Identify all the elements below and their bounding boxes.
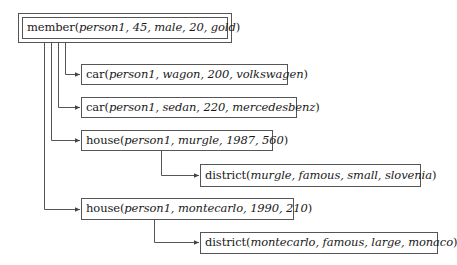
district1-args: murgle, famous, small, slovenia <box>250 170 432 182</box>
house1-predicate: house <box>86 135 120 147</box>
house2-node: house(person1, montecarlo, 1990, 210) <box>81 198 294 220</box>
district2-args: montecarlo, famous, large, monaco <box>250 237 453 249</box>
district1-predicate: district <box>205 170 246 182</box>
car1-predicate: car <box>86 69 105 81</box>
car2-node: car(person1, sedan, 220, mercedesbenz) <box>81 97 297 118</box>
house1-node: house(person1, murgle, 1987, 560) <box>81 130 273 151</box>
house1-args: person1, murgle, 1987, 560 <box>124 135 283 147</box>
car1-args: person1, wagon, 200, volkswagen <box>109 69 304 81</box>
edge-member-car2 <box>59 43 81 108</box>
member-node: member(person1, 45, male, 20, gold) <box>22 17 228 39</box>
district1-node: district(murgle, famous, small, slovenia… <box>200 164 421 187</box>
edge-house2-district2 <box>155 220 200 243</box>
district2-predicate: district <box>205 237 246 249</box>
district2-node: district(montecarlo, famous, large, mona… <box>200 232 438 254</box>
member-predicate: member <box>27 22 75 34</box>
car2-args: person1, sedan, 220, mercedesbenz <box>109 102 315 114</box>
edge-house1-district1 <box>162 151 200 176</box>
house2-args: person1, montecarlo, 1990, 210 <box>124 203 307 215</box>
house2-predicate: house <box>86 203 120 215</box>
edge-member-car1 <box>66 43 81 75</box>
edge-member-house2 <box>45 43 81 210</box>
car2-predicate: car <box>86 102 105 114</box>
member-args: person1, 45, male, 20, gold <box>79 22 236 34</box>
car1-node: car(person1, wagon, 200, volkswagen) <box>81 64 288 85</box>
